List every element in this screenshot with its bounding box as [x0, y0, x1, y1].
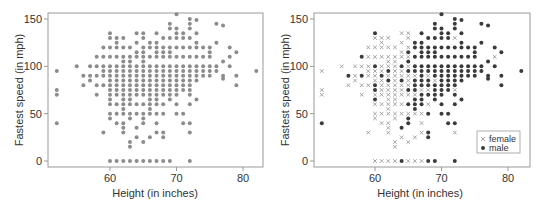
data-point — [128, 79, 132, 83]
female-point — [400, 55, 404, 59]
data-point — [175, 12, 179, 16]
female-point — [387, 55, 391, 59]
male-point — [466, 64, 470, 68]
data-point — [135, 93, 139, 97]
female-point — [406, 140, 410, 144]
male-point — [446, 79, 450, 83]
data-point — [135, 74, 139, 78]
left-y-axis-ticks: 050100150 — [24, 13, 48, 167]
female-point — [340, 65, 344, 69]
female-point — [380, 88, 384, 92]
data-point — [121, 60, 125, 64]
male-point — [433, 74, 437, 78]
male-point — [453, 121, 457, 125]
data-point — [181, 112, 185, 116]
data-point — [148, 74, 152, 78]
female-point — [367, 46, 371, 50]
data-point — [108, 79, 112, 83]
data-point — [194, 18, 198, 22]
data-point — [115, 55, 119, 59]
male-point — [400, 79, 404, 83]
female-point — [373, 69, 377, 73]
data-point — [128, 93, 132, 97]
male-point — [453, 69, 457, 73]
male-point — [479, 69, 483, 73]
left-x-axis-label: Height (in inches) — [112, 187, 198, 199]
male-point — [473, 50, 477, 54]
data-point — [188, 88, 192, 92]
female-point — [493, 55, 497, 59]
data-point — [121, 107, 125, 111]
male-point — [433, 45, 437, 49]
data-point — [121, 88, 125, 92]
female-point — [367, 74, 371, 78]
female-point — [400, 69, 404, 73]
male-point — [373, 83, 377, 87]
data-point — [155, 64, 159, 68]
data-point — [188, 45, 192, 49]
female-point — [387, 36, 391, 40]
data-point — [95, 64, 99, 68]
data-point — [121, 93, 125, 97]
data-point — [181, 69, 185, 73]
data-point — [188, 121, 192, 125]
data-point — [128, 88, 132, 92]
female-point — [393, 112, 397, 116]
female-point — [400, 102, 404, 106]
female-point — [380, 41, 384, 45]
male-point — [479, 64, 483, 68]
male-point — [440, 45, 444, 49]
female-point — [393, 83, 397, 87]
data-point — [108, 159, 112, 163]
female-point — [413, 74, 417, 78]
male-point — [433, 93, 437, 97]
data-point — [121, 159, 125, 163]
male-point — [453, 79, 457, 83]
data-point — [168, 50, 172, 54]
female-point — [373, 46, 377, 50]
data-point — [155, 45, 159, 49]
female-point — [453, 131, 457, 135]
male-point — [433, 159, 437, 163]
data-point — [121, 126, 125, 130]
data-point — [128, 159, 132, 163]
male-point — [453, 159, 457, 163]
female-point — [406, 93, 410, 97]
data-point — [115, 93, 119, 97]
female-point — [367, 69, 371, 73]
male-point — [360, 74, 364, 78]
data-point — [128, 145, 132, 149]
data-point — [155, 93, 159, 97]
data-point — [175, 112, 179, 116]
female-point — [380, 83, 384, 87]
male-point — [413, 79, 417, 83]
male-point — [459, 79, 463, 83]
data-point — [115, 41, 119, 45]
female-point — [393, 98, 397, 102]
y-tick-label: 100 — [24, 60, 42, 72]
data-point — [201, 55, 205, 59]
data-point — [194, 97, 198, 101]
female-point — [353, 79, 357, 83]
data-point — [141, 88, 145, 92]
data-point — [88, 79, 92, 83]
male-point — [440, 112, 444, 116]
male-point — [400, 64, 404, 68]
data-point — [194, 41, 198, 45]
female-point — [387, 88, 391, 92]
male-point — [406, 121, 410, 125]
data-point — [108, 36, 112, 40]
data-point — [234, 74, 238, 78]
male-point — [373, 88, 377, 92]
male-point — [446, 55, 450, 59]
male-point — [420, 69, 424, 73]
data-point — [141, 69, 145, 73]
data-point — [128, 74, 132, 78]
female-point — [406, 74, 410, 78]
data-point — [214, 69, 218, 73]
female-point — [426, 102, 430, 106]
female-point — [453, 36, 457, 40]
female-point — [367, 65, 371, 69]
male-point — [493, 45, 497, 49]
data-point — [101, 55, 105, 59]
